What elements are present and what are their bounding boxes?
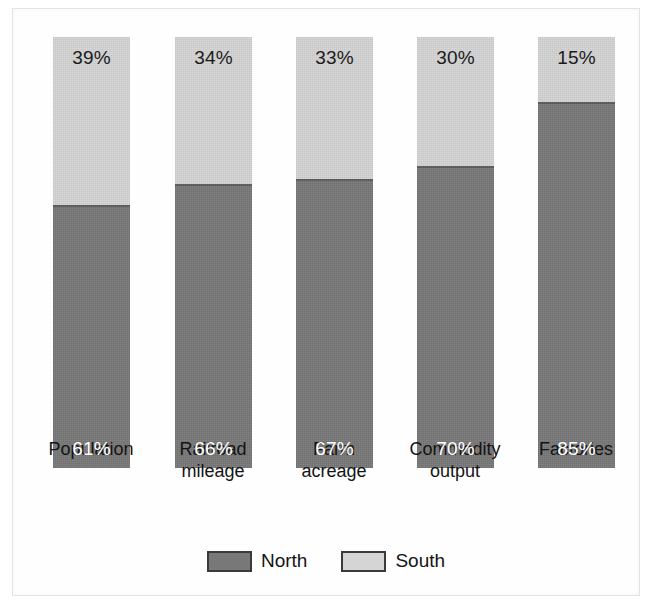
stacked-bar-commodity-output: 30% 70% — [417, 37, 494, 468]
value-label-south-population: 39% — [53, 47, 130, 69]
legend-item-south: South — [341, 550, 445, 572]
bar-segment-north-commodity-output — [417, 166, 494, 468]
bar-column-farm-acreage: 33% 67% — [296, 37, 373, 468]
chart-legend: North South — [0, 550, 652, 572]
value-label-south-commodity-output: 30% — [417, 47, 494, 69]
bar-column-factories: 15% 85% — [538, 37, 615, 468]
value-label-south-farm-acreage: 33% — [296, 47, 373, 69]
value-label-south-factories: 15% — [538, 47, 615, 69]
value-label-north-factories: 85% — [538, 438, 615, 460]
bar-segment-north-railroad-mileage — [175, 184, 252, 468]
value-label-north-farm-acreage: 67% — [296, 438, 373, 460]
stacked-bar-farm-acreage: 33% 67% — [296, 37, 373, 468]
value-label-north-population: 61% — [53, 438, 130, 460]
bar-column-population: 39% 61% — [53, 37, 130, 468]
value-label-north-railroad-mileage: 66% — [175, 438, 252, 460]
bar-segment-north-population — [53, 205, 130, 468]
bar-column-railroad-mileage: 34% 66% — [175, 37, 252, 468]
stacked-bar-factories: 15% 85% — [538, 37, 615, 468]
category-label-line2-farm-acreage: acreage — [269, 460, 399, 482]
legend-swatch-north-icon — [207, 551, 252, 572]
value-label-south-railroad-mileage: 34% — [175, 47, 252, 69]
legend-label-north: North — [261, 550, 307, 572]
value-label-north-commodity-output: 70% — [417, 438, 494, 460]
legend-label-south: South — [395, 550, 445, 572]
bar-segment-north-factories — [538, 102, 615, 468]
chart-figure: 39% 61% Population 34% 66% Railroad mile… — [0, 0, 652, 605]
category-label-line2-commodity-output: output — [390, 460, 520, 482]
category-label-line2-railroad-mileage: mileage — [148, 460, 278, 482]
stacked-bar-population: 39% 61% — [53, 37, 130, 468]
bar-column-commodity-output: 30% 70% — [417, 37, 494, 468]
plot-area: 39% 61% Population 34% 66% Railroad mile… — [0, 0, 652, 605]
stacked-bar-railroad-mileage: 34% 66% — [175, 37, 252, 468]
legend-item-north: North — [207, 550, 307, 572]
bar-segment-north-farm-acreage — [296, 179, 373, 468]
legend-swatch-south-icon — [341, 551, 386, 572]
